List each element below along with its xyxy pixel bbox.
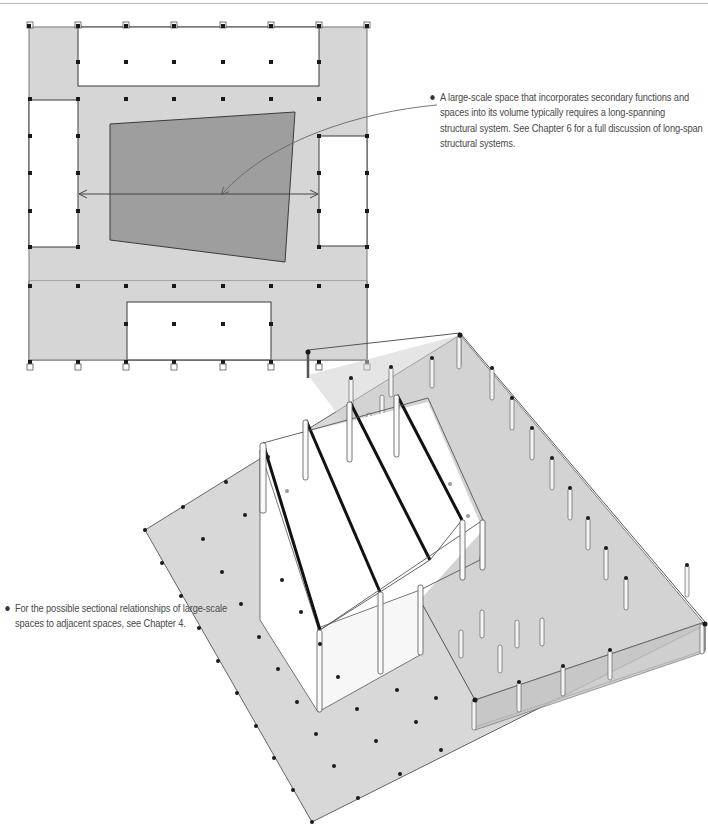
annotation-sectional: For the possible sectional relationships…	[15, 601, 235, 632]
isometric-view	[143, 333, 708, 825]
annotation-long-span: A large-scale space that incorporates se…	[440, 90, 704, 152]
annotation-sectional-text: For the possible sectional relationships…	[15, 602, 227, 629]
bullet-icon	[430, 95, 434, 100]
floor-plan	[27, 22, 437, 370]
bullet-icon	[5, 606, 9, 611]
annotation-long-span-text: A large-scale space that incorporates se…	[440, 91, 703, 149]
